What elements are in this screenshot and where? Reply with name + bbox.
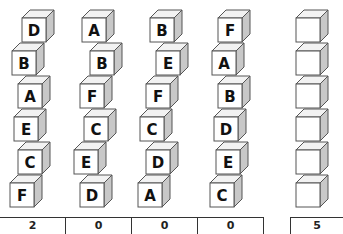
- stack-1: FCEABD: [10, 10, 54, 207]
- cube-front-face: [296, 150, 320, 174]
- cube-1-3: A: [18, 76, 50, 108]
- cube-front-face: [296, 117, 320, 141]
- cube-letter: E: [163, 55, 173, 73]
- cube-letter: B: [156, 22, 167, 40]
- cube-4-5: E: [216, 142, 248, 174]
- cube-1-6: F: [10, 175, 42, 207]
- score-cell-1: 2: [0, 218, 66, 234]
- cube-2-1: A: [82, 10, 114, 42]
- cube-letter: F: [87, 88, 97, 106]
- cube-4-3: B: [218, 76, 250, 108]
- cube-letter: B: [18, 55, 29, 73]
- cube-letter: E: [223, 154, 233, 172]
- cube-front-face: [296, 84, 320, 108]
- cube-letter: C: [146, 121, 157, 139]
- score-row: 2 0 0 0: [0, 217, 264, 234]
- cube-3-1: B: [150, 10, 182, 42]
- cube-2-6: D: [80, 175, 112, 207]
- cube-letter: E: [81, 154, 91, 172]
- cube-letter: C: [90, 121, 101, 139]
- cube-2-5: E: [74, 142, 106, 174]
- answer-cube-6: [296, 175, 328, 207]
- answer-cube-2: [296, 43, 328, 75]
- cube-letter: F: [225, 22, 235, 40]
- cube-1-5: C: [18, 142, 50, 174]
- stack-2: DECFBA: [74, 10, 122, 207]
- cube-letter: A: [144, 187, 156, 205]
- cube-4-2: A: [212, 43, 244, 75]
- cube-letter: F: [17, 187, 27, 205]
- cube-front-face: [296, 18, 320, 42]
- cube-letter: C: [24, 154, 35, 172]
- stack-4: CEDBAF: [210, 10, 250, 207]
- score-cell-2: 0: [66, 218, 132, 234]
- answer-score-row: 5: [290, 217, 343, 234]
- cube-1-2: B: [12, 43, 44, 75]
- answer-cube-3: [296, 76, 328, 108]
- cube-3-4: C: [140, 109, 172, 141]
- cube-4-1: F: [218, 10, 250, 42]
- cube-letter: B: [224, 88, 235, 106]
- cube-letter: D: [220, 121, 232, 139]
- cube-front-face: [296, 51, 320, 75]
- score-cell-3: 0: [132, 218, 198, 234]
- cube-3-5: D: [146, 142, 178, 174]
- cube-letter: B: [96, 55, 107, 73]
- answer-stack: [296, 10, 328, 207]
- cube-letter: D: [152, 154, 164, 172]
- answer-cube-4: [296, 109, 328, 141]
- cube-front-face: [296, 183, 320, 207]
- answer-cube-1: [296, 10, 328, 42]
- answer-cube-5: [296, 142, 328, 174]
- answer-score-cell: 5: [291, 218, 343, 234]
- cube-4-4: D: [214, 109, 246, 141]
- cube-4-6: C: [210, 175, 242, 207]
- cube-1-1: D: [22, 10, 54, 42]
- cube-3-6: A: [138, 175, 170, 207]
- cube-letter: C: [216, 187, 227, 205]
- cube-2-4: C: [84, 109, 116, 141]
- cube-2-2: B: [90, 43, 122, 75]
- cube-1-4: E: [14, 109, 46, 141]
- cube-letter: A: [218, 55, 230, 73]
- cube-letter: A: [24, 88, 36, 106]
- cube-letter: D: [86, 187, 98, 205]
- cube-3-2: E: [156, 43, 188, 75]
- cube-letter: E: [21, 121, 31, 139]
- cube-2-3: F: [80, 76, 112, 108]
- cube-letter: F: [153, 88, 163, 106]
- cube-3-3: F: [146, 76, 178, 108]
- cube-letter: D: [28, 22, 40, 40]
- stack-3: ADCFEB: [138, 10, 188, 207]
- score-cell-4: 0: [198, 218, 264, 234]
- cube-letter: A: [88, 22, 100, 40]
